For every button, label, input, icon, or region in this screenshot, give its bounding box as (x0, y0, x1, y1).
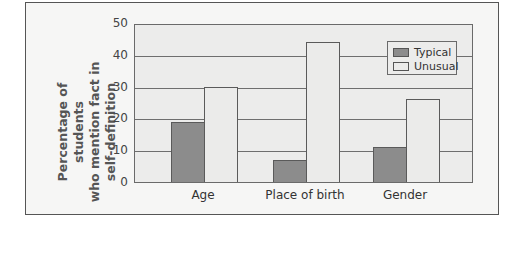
y-tick-label: 30 (108, 80, 128, 94)
bar-unusual-gender (406, 99, 440, 182)
gridline (135, 88, 472, 89)
y-axis-label-line-2: who mention fact in (87, 57, 103, 207)
y-tick-label: 0 (108, 175, 128, 189)
y-tick-label: 20 (108, 111, 128, 125)
unusual-swatch-icon (393, 62, 409, 71)
legend-item-typical: Typical (393, 46, 451, 58)
legend-item-unusual: Unusual (393, 60, 459, 72)
bar-typical-gender (373, 147, 407, 182)
legend-label-unusual: Unusual (414, 60, 459, 73)
y-tick-label: 50 (108, 16, 128, 30)
legend: Typical Unusual (387, 41, 457, 75)
bar-unusual-place-of-birth (306, 42, 340, 182)
x-tick-label: Gender (345, 188, 465, 202)
legend-label-typical: Typical (414, 46, 451, 59)
y-axis-label-line-1: Percentage of students (55, 57, 87, 207)
y-tick-label: 40 (108, 48, 128, 62)
typical-swatch-icon (393, 48, 409, 57)
bar-typical-place-of-birth (273, 160, 307, 182)
y-tick-label: 10 (108, 143, 128, 157)
bar-typical-age (171, 122, 205, 182)
bar-unusual-age (204, 87, 238, 182)
